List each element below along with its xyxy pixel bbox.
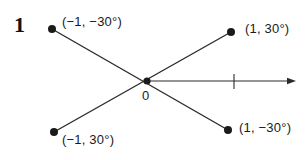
polar-coordinate-figure: 1 (−1, −30°) (1, 30°) (−1, 30°) (1, −30°… (0, 0, 307, 160)
point-label-upper-left: (−1, −30°) (62, 15, 122, 28)
origin-label: 0 (142, 89, 149, 102)
ray-upper-left-to-lower-right (52, 29, 228, 130)
figure-number: 1 (14, 14, 25, 36)
point-label-upper-right: (1, 30°) (245, 22, 289, 35)
polar-axis-group (147, 74, 296, 89)
point-label-lower-left: (−1, 30°) (62, 133, 114, 146)
point-marker-origin (143, 77, 150, 84)
point-marker-lower-left (50, 128, 58, 136)
polar-axis-arrowhead (287, 78, 296, 84)
point-marker-upper-right (227, 28, 235, 36)
point-label-lower-right: (1, −30°) (239, 121, 291, 134)
point-marker-upper-left (48, 25, 56, 33)
point-marker-lower-right (224, 126, 232, 134)
